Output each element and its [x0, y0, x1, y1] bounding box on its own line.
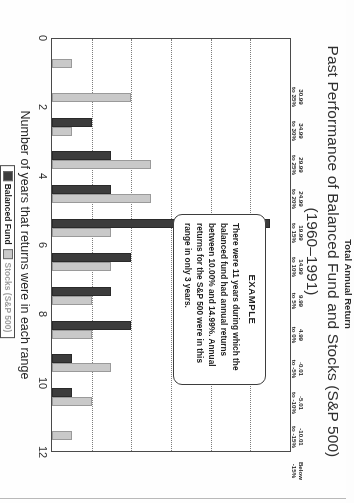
value-axis: 024681012 — [33, 38, 49, 452]
bar-stocks — [52, 93, 131, 102]
category-axis-label-line: to 30% — [290, 121, 298, 141]
legend-item-balanced-fund: Balanced Fund — [3, 171, 13, 245]
bar-stocks — [52, 363, 112, 372]
category-axis-label-line: to -10% — [290, 392, 298, 414]
category-axis-label-line: to 15% — [290, 223, 298, 243]
category-axis-label: -0.01to -5% — [290, 352, 334, 386]
category-axis-label: 14.99to 10% — [290, 250, 334, 284]
example-callout: EXAMPLE There were 11 years during which… — [173, 214, 266, 385]
page-edge-line — [0, 498, 346, 499]
bar-group — [52, 414, 290, 448]
value-axis-tick-label: 2 — [37, 104, 49, 110]
bar-balanced-fund — [52, 287, 112, 296]
category-axis-label-line: to 20% — [290, 189, 298, 209]
bar-group — [52, 380, 290, 414]
category-axis-label-line: 14.99 — [298, 259, 306, 274]
bar-group — [52, 143, 290, 177]
value-axis-tick-label: 8 — [37, 311, 49, 317]
category-axis-label-line: 30.99 — [298, 89, 306, 104]
category-axis-label: 19.99to 15% — [290, 216, 334, 250]
category-axis-label-line: 24.99 — [298, 191, 306, 206]
bar-stocks — [52, 194, 151, 203]
category-axis: 30.99to 35%34.99to 30%29.99to 25%24.99to… — [290, 77, 334, 491]
category-axis-label: 9.99to 5% — [290, 284, 334, 318]
category-axis-label: 34.99to 30% — [290, 114, 334, 148]
legend-label-stocks: Stocks (S&P 500) — [3, 263, 13, 333]
value-axis-tick-label: 12 — [37, 446, 49, 458]
bar-stocks — [52, 296, 92, 305]
value-axis-tick-label: 10 — [37, 377, 49, 389]
category-axis-label-line: to 10% — [290, 257, 298, 277]
bar-stocks — [52, 127, 72, 136]
bar-group — [52, 42, 290, 76]
category-axis-label-line: 9.99 — [298, 295, 306, 307]
bar-balanced-fund — [52, 118, 92, 127]
bar-stocks — [52, 228, 112, 237]
x-axis-title: Number of years that returns were in eac… — [18, 38, 32, 452]
category-axis-label-line: Below — [298, 462, 306, 480]
bar-balanced-fund — [52, 185, 112, 194]
category-axis-label-line: to -15% — [290, 426, 298, 448]
category-axis-label-line: -5.01 — [298, 396, 306, 410]
category-axis-label: 4.99to 0% — [290, 318, 334, 352]
legend-item-stocks: Stocks (S&P 500) — [3, 250, 13, 333]
bar-stocks — [52, 59, 72, 68]
value-axis-tick-label: 0 — [37, 35, 49, 41]
category-axis-label-line: 29.99 — [298, 157, 306, 172]
category-axis-label: -10.01to -15% — [290, 420, 334, 454]
value-axis-tick-label: 4 — [37, 173, 49, 179]
bar-balanced-fund — [52, 151, 112, 160]
category-axis-label-line: to -5% — [290, 360, 298, 379]
bar-stocks — [52, 397, 92, 406]
bar-group — [52, 177, 290, 211]
category-axis-label-line: 19.99 — [298, 225, 306, 240]
category-axis-label: 24.99to 20% — [290, 182, 334, 216]
bar-group — [52, 76, 290, 110]
legend-label-balanced-fund: Balanced Fund — [3, 184, 13, 245]
bar-balanced-fund — [52, 253, 131, 262]
example-callout-title: EXAMPLE — [247, 223, 258, 376]
y-axis-title: Total Annual Return — [343, 77, 354, 491]
bar-balanced-fund — [52, 388, 72, 397]
category-axis-label-line: -15% — [290, 464, 298, 478]
category-axis-label: Below-15% — [290, 454, 334, 488]
example-callout-body: There were 11 years during which the bal… — [182, 223, 242, 376]
legend-swatch-stocks — [3, 250, 13, 260]
category-axis-label: -5.01to -10% — [290, 386, 334, 420]
value-axis-tick-label: 6 — [37, 242, 49, 248]
bar-balanced-fund — [52, 354, 72, 363]
legend-swatch-balanced-fund — [3, 171, 13, 181]
bar-stocks — [52, 330, 92, 339]
category-axis-label-line: to 0% — [290, 327, 298, 344]
bar-stocks — [52, 262, 112, 271]
category-axis-label: 30.99to 35% — [290, 80, 334, 114]
category-axis-label-line: 4.99 — [298, 329, 306, 341]
category-axis-label-line: -0.01 — [298, 362, 306, 376]
bar-stocks — [52, 431, 72, 440]
category-axis-label-line: -10.01 — [298, 428, 306, 446]
category-axis-label-line: to 25% — [290, 155, 298, 175]
bar-group — [52, 110, 290, 144]
category-axis-label-line: 34.99 — [298, 123, 306, 138]
bar-balanced-fund — [52, 321, 131, 330]
bar-stocks — [52, 160, 151, 169]
chart-legend: Balanced Fund Stocks (S&P 500) — [0, 165, 15, 339]
category-axis-label: 29.99to 25% — [290, 148, 334, 182]
category-axis-label-line: to 5% — [290, 293, 298, 310]
category-axis-label-line: to 35% — [290, 87, 298, 107]
